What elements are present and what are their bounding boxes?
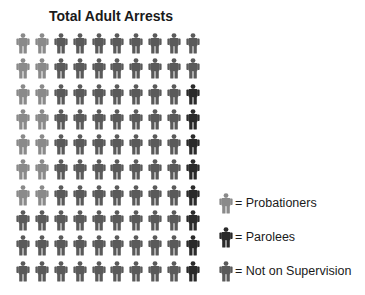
person-icon xyxy=(54,58,68,79)
person-icon xyxy=(35,235,49,256)
person-icon xyxy=(35,109,49,130)
legend-item: = Probationers xyxy=(219,186,351,220)
pictogram-unit xyxy=(183,58,202,83)
person-icon xyxy=(186,58,200,79)
pictogram-unit xyxy=(70,33,89,58)
chart-title: Total Adult Arrests xyxy=(0,8,222,24)
pictogram-unit xyxy=(33,185,52,210)
pictogram-unit xyxy=(89,84,108,109)
person-icon xyxy=(16,109,30,130)
person-icon xyxy=(16,134,30,155)
person-icon xyxy=(92,235,106,256)
pictogram-unit xyxy=(52,33,71,58)
pictogram-unit xyxy=(183,210,202,235)
pictogram-unit xyxy=(164,58,183,83)
pictogram-unit xyxy=(127,134,146,159)
person-icon xyxy=(16,159,30,180)
pictogram-unit xyxy=(127,210,146,235)
person-icon xyxy=(167,159,181,180)
pictogram-unit xyxy=(127,33,146,58)
person-icon xyxy=(186,109,200,130)
person-icon xyxy=(186,235,200,256)
person-icon xyxy=(73,185,87,206)
pictogram-unit xyxy=(89,109,108,134)
pictogram-unit xyxy=(70,58,89,83)
person-icon xyxy=(167,185,181,206)
person-icon xyxy=(35,210,49,231)
person-icon xyxy=(92,261,106,282)
person-icon xyxy=(54,33,68,54)
person-icon xyxy=(110,235,124,256)
pictogram-unit xyxy=(33,33,52,58)
pictogram-unit xyxy=(146,185,165,210)
person-icon xyxy=(110,185,124,206)
person-icon xyxy=(148,84,162,105)
person-icon xyxy=(167,33,181,54)
person-icon xyxy=(73,210,87,231)
pictogram-unit xyxy=(146,134,165,159)
pictogram-grid xyxy=(14,33,214,286)
pictogram-unit xyxy=(108,159,127,184)
person-icon xyxy=(16,185,30,206)
person-icon xyxy=(167,210,181,231)
pictogram-unit xyxy=(164,33,183,58)
pictogram-unit xyxy=(164,134,183,159)
pictogram-unit xyxy=(14,159,33,184)
pictogram-unit xyxy=(52,159,71,184)
pictogram-unit xyxy=(89,235,108,260)
pictogram-unit xyxy=(70,109,89,134)
pictogram-unit xyxy=(127,84,146,109)
person-icon xyxy=(92,159,106,180)
legend-item: = Parolees xyxy=(219,220,351,254)
person-icon xyxy=(148,185,162,206)
pictogram-unit xyxy=(70,235,89,260)
pictogram-unit xyxy=(52,235,71,260)
pictogram-unit xyxy=(183,235,202,260)
person-icon xyxy=(148,261,162,282)
person-icon xyxy=(92,134,106,155)
pictogram-unit xyxy=(127,109,146,134)
person-icon xyxy=(167,235,181,256)
pictogram-unit xyxy=(183,134,202,159)
person-icon xyxy=(73,109,87,130)
person-icon xyxy=(129,84,143,105)
pictogram-unit xyxy=(127,235,146,260)
person-icon xyxy=(54,109,68,130)
person-icon xyxy=(16,84,30,105)
person-icon xyxy=(148,33,162,54)
person-icon xyxy=(35,159,49,180)
person-icon xyxy=(186,210,200,231)
pictogram-unit xyxy=(127,58,146,83)
person-icon xyxy=(92,84,106,105)
person-icon xyxy=(148,210,162,231)
pictogram-unit xyxy=(89,159,108,184)
legend-label: = Not on Supervision xyxy=(235,264,351,278)
pictogram-unit xyxy=(33,58,52,83)
person-icon xyxy=(186,134,200,155)
pictogram-unit xyxy=(108,210,127,235)
pictogram-unit xyxy=(14,58,33,83)
pictogram-unit xyxy=(89,33,108,58)
pictogram-unit xyxy=(108,235,127,260)
pictogram-unit xyxy=(164,235,183,260)
pictogram-unit xyxy=(164,210,183,235)
pictogram-unit xyxy=(52,210,71,235)
person-icon xyxy=(129,159,143,180)
person-icon xyxy=(35,134,49,155)
person-icon xyxy=(148,58,162,79)
pictogram-unit xyxy=(108,185,127,210)
pictogram-unit xyxy=(70,134,89,159)
person-icon xyxy=(167,261,181,282)
pictogram-unit xyxy=(164,159,183,184)
person-icon xyxy=(129,185,143,206)
person-icon xyxy=(35,84,49,105)
pictogram-unit xyxy=(33,159,52,184)
legend-item: = Not on Supervision xyxy=(219,254,351,288)
person-icon xyxy=(35,185,49,206)
pictogram-unit xyxy=(14,185,33,210)
person-icon xyxy=(110,159,124,180)
pictogram-unit xyxy=(33,134,52,159)
person-icon xyxy=(186,84,200,105)
pictogram-unit xyxy=(70,159,89,184)
person-icon xyxy=(110,84,124,105)
